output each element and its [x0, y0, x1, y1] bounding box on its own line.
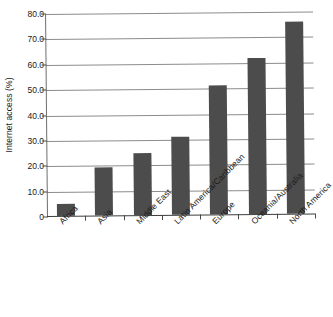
y-axis-title-text: Internet access (%) [4, 77, 14, 152]
plot-area [47, 14, 315, 217]
gridline [46, 88, 314, 92]
plot-inner [45, 11, 315, 217]
x-axis-category-labels: AfricaAsiaMiddle EastLatin America/Carib… [47, 219, 315, 317]
gridline [45, 11, 313, 15]
gridline [46, 62, 314, 66]
bar [209, 85, 228, 214]
x-axis-tick [315, 213, 316, 218]
gridlines [45, 11, 313, 14]
y-axis-tick-label: 10.0 [27, 187, 44, 196]
gridline [46, 113, 314, 117]
y-axis-title: Internet access (%) [0, 0, 18, 230]
gridline [45, 37, 313, 41]
bar [247, 58, 266, 214]
